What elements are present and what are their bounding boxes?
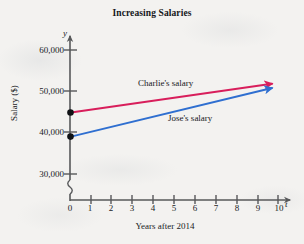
y-axis (68, 36, 73, 201)
plot-area (0, 0, 304, 244)
series-line-jose (71, 88, 272, 137)
chart-figure: Increasing Salaries y t Salary ($) Years… (0, 0, 304, 244)
data-point-charlie-origin (67, 109, 74, 116)
series-line-charlie (71, 84, 272, 113)
y-axis-break-squiggle (68, 180, 73, 194)
data-point-jose-origin (67, 133, 74, 140)
